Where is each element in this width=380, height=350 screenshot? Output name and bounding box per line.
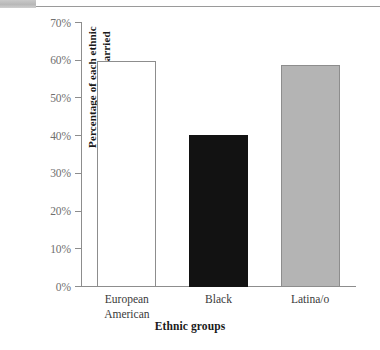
bar-latina-o xyxy=(281,65,340,288)
y-tick-70pct: 70% xyxy=(75,22,81,23)
category-label-line: European xyxy=(105,292,149,307)
y-tick-30pct: 30% xyxy=(75,173,81,174)
y-tick-label: 20% xyxy=(50,205,71,217)
category-label-line: Black xyxy=(205,292,232,307)
x-axis-title: Ethnic groups xyxy=(0,320,380,332)
y-tick-label: 0% xyxy=(56,281,71,293)
y-tick-label: 50% xyxy=(50,92,71,104)
category-label-latina-o: Latina/o xyxy=(264,292,356,307)
top-tab-block xyxy=(0,0,36,8)
y-tick-20pct: 20% xyxy=(75,211,81,212)
y-tick-label: 40% xyxy=(50,130,71,142)
y-tick-label: 70% xyxy=(50,17,71,29)
y-tick-50pct: 50% xyxy=(75,97,81,98)
y-axis-line xyxy=(81,22,82,286)
y-tick-0pct: 0% xyxy=(75,286,81,287)
category-label-line: Latina/o xyxy=(291,292,329,307)
bar-european-american xyxy=(97,61,156,287)
y-tick-10pct: 10% xyxy=(75,248,81,249)
category-label-european-american: EuropeanAmerican xyxy=(81,292,173,321)
bar-chart-figure: Percentage of each ethnic group who are … xyxy=(0,8,380,350)
y-tick-label: 60% xyxy=(50,54,71,66)
y-tick-60pct: 60% xyxy=(75,60,81,61)
y-tick-label: 30% xyxy=(50,167,71,179)
category-label-black: Black xyxy=(173,292,265,307)
y-tick-40pct: 40% xyxy=(75,135,81,136)
bar-black xyxy=(189,135,248,287)
plot-area: 70%60%50%40%30%20%10%0% EuropeanAmerican… xyxy=(81,22,356,287)
y-tick-label: 10% xyxy=(50,243,71,255)
